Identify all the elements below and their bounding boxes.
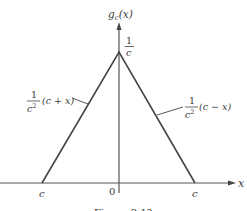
svg-text:c: c bbox=[126, 47, 132, 58]
svg-text:(c + x): (c + x) bbox=[42, 95, 74, 106]
triangle-function-figure: x gc(x) 1 c 1 c2 (c + x) 1 c2 (c − x) bbox=[0, 0, 247, 211]
y-axis-arrow-icon bbox=[117, 22, 122, 30]
right-slope-label: 1 c2 (c − x) bbox=[157, 95, 231, 120]
left-leader-line bbox=[72, 98, 88, 104]
left-slope-label: 1 c2 (c + x) bbox=[27, 89, 88, 114]
x-axis-label: x bbox=[238, 177, 245, 190]
x-tick-right-c: c bbox=[192, 188, 198, 199]
svg-text:1: 1 bbox=[189, 95, 195, 106]
svg-text:1: 1 bbox=[126, 35, 132, 46]
svg-text:1: 1 bbox=[31, 89, 37, 100]
plot-canvas: x gc(x) 1 c 1 c2 (c + x) 1 c2 (c − x) bbox=[0, 0, 247, 211]
figure-caption: Figure 3.1? bbox=[94, 207, 152, 211]
right-leader-line bbox=[157, 107, 183, 115]
x-tick-left-c: c bbox=[39, 188, 45, 199]
y-axis-label: gc(x) bbox=[108, 8, 133, 22]
peak-label: 1 c bbox=[125, 35, 135, 58]
svg-text:(c − x): (c − x) bbox=[199, 101, 231, 112]
x-tick-origin: 0 bbox=[109, 186, 115, 197]
svg-text:c2: c2 bbox=[185, 108, 194, 120]
svg-text:c2: c2 bbox=[27, 102, 36, 114]
x-axis-arrow-icon bbox=[228, 181, 236, 186]
